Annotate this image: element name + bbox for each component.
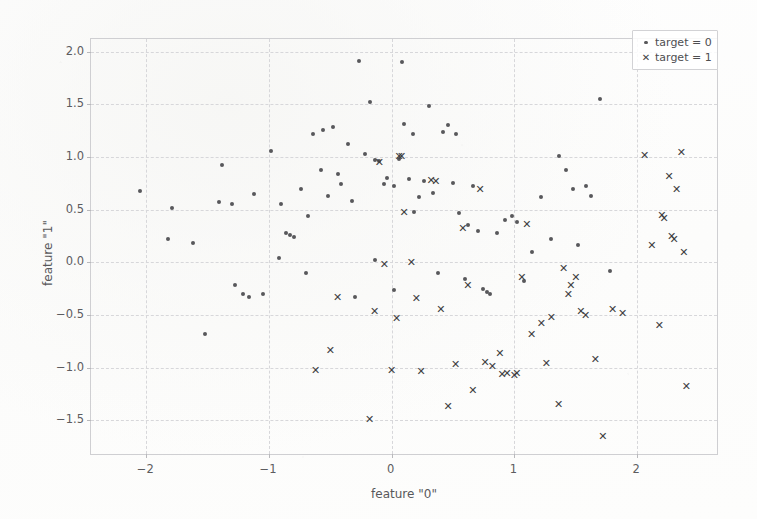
- y-tick-mark: [87, 104, 91, 105]
- data-point-target-1: [541, 358, 552, 369]
- data-point-target-0: [279, 202, 283, 206]
- y-tick-mark: [87, 157, 91, 158]
- y-tick-mark: [87, 262, 91, 263]
- data-point-target-1: [416, 365, 427, 376]
- data-point-target-0: [451, 181, 455, 185]
- data-point-target-0: [427, 104, 431, 108]
- data-point-target-0: [363, 152, 367, 156]
- legend: target = 0 ✕ target = 1: [632, 30, 718, 70]
- data-point-target-0: [598, 97, 602, 101]
- data-point-target-1: [467, 384, 478, 395]
- data-point-target-1: [553, 399, 564, 410]
- data-point-target-0: [350, 199, 354, 203]
- data-point-target-1: [386, 364, 397, 375]
- x-tick-label: −1: [259, 462, 276, 476]
- y-tick-mark: [87, 368, 91, 369]
- data-point-target-1: [391, 313, 402, 324]
- data-point-target-1: [526, 328, 537, 339]
- data-point-target-1: [671, 183, 682, 194]
- data-point-target-0: [331, 125, 335, 129]
- data-point-target-0: [441, 130, 445, 134]
- data-point-target-1: [617, 307, 628, 318]
- data-point-target-0: [608, 269, 612, 273]
- data-point-target-0: [411, 132, 415, 136]
- data-point-target-0: [373, 258, 377, 262]
- data-point-target-0: [261, 292, 265, 296]
- data-point-target-0: [457, 211, 461, 215]
- y-tick-label: 2.0: [52, 44, 84, 58]
- data-point-target-0: [584, 184, 588, 188]
- data-point-target-1: [369, 305, 380, 316]
- y-tick-mark: [87, 315, 91, 316]
- data-point-target-1: [396, 150, 407, 161]
- data-point-target-0: [233, 283, 237, 287]
- data-point-target-0: [392, 184, 396, 188]
- y-tick-label: 0.5: [52, 202, 84, 216]
- data-point-target-0: [336, 172, 340, 176]
- data-point-target-0: [170, 206, 174, 210]
- gridline-horizontal: [91, 52, 717, 53]
- data-point-target-0: [436, 271, 440, 275]
- data-point-target-1: [332, 292, 343, 303]
- data-point-target-1: [399, 206, 410, 217]
- gridline-vertical: [514, 39, 515, 454]
- y-tick-label: 1.0: [52, 149, 84, 163]
- data-point-target-0: [400, 60, 404, 64]
- data-point-target-1: [646, 240, 657, 251]
- data-point-target-0: [557, 154, 561, 158]
- data-point-target-1: [546, 312, 557, 323]
- data-point-target-0: [368, 100, 372, 104]
- x-tick-label: 1: [510, 462, 517, 476]
- data-point-target-0: [417, 195, 421, 199]
- data-point-target-1: [570, 272, 581, 283]
- y-tick-label: −0.5: [52, 307, 84, 321]
- data-point-target-0: [382, 182, 386, 186]
- data-point-target-0: [230, 202, 234, 206]
- data-point-target-0: [402, 122, 406, 126]
- data-point-target-0: [292, 235, 296, 239]
- data-point-target-1: [590, 354, 601, 365]
- data-point-target-0: [385, 176, 389, 180]
- data-point-target-1: [475, 183, 486, 194]
- x-tick-label: 0: [387, 462, 394, 476]
- data-point-target-0: [539, 195, 543, 199]
- x-tick-label: 2: [633, 462, 640, 476]
- x-tick-mark: [637, 454, 638, 458]
- data-point-target-0: [407, 177, 411, 181]
- data-point-target-1: [681, 380, 692, 391]
- data-point-target-0: [241, 292, 245, 296]
- data-point-target-1: [494, 347, 505, 358]
- data-point-target-0: [247, 295, 251, 299]
- y-tick-label: 1.5: [52, 96, 84, 110]
- data-point-target-0: [269, 149, 273, 153]
- data-point-target-0: [571, 187, 575, 191]
- gridline-horizontal: [91, 368, 717, 369]
- data-point-target-1: [664, 170, 675, 181]
- y-tick-label: −1.0: [52, 360, 84, 374]
- data-point-target-1: [597, 431, 608, 442]
- gridline-horizontal: [91, 104, 717, 105]
- data-point-target-0: [564, 168, 568, 172]
- y-tick-label: −1.5: [52, 412, 84, 426]
- data-point-target-1: [462, 280, 473, 291]
- data-point-target-0: [485, 290, 489, 294]
- data-point-target-1: [457, 222, 468, 233]
- data-point-target-0: [476, 229, 480, 233]
- gridline-vertical: [269, 39, 270, 454]
- data-point-target-0: [589, 194, 593, 198]
- data-point-target-1: [450, 359, 461, 370]
- data-point-target-1: [669, 234, 680, 245]
- data-point-target-0: [252, 192, 256, 196]
- data-point-target-0: [357, 59, 361, 63]
- cross-marker-icon: ✕: [637, 53, 655, 63]
- data-point-target-0: [304, 271, 308, 275]
- data-point-target-0: [446, 123, 450, 127]
- data-point-target-1: [654, 320, 665, 331]
- gridline-vertical: [392, 39, 393, 454]
- y-tick-mark: [87, 52, 91, 53]
- data-point-target-1: [521, 219, 532, 230]
- gridline-vertical: [146, 39, 147, 454]
- data-point-target-0: [277, 256, 281, 260]
- x-tick-mark: [269, 454, 270, 458]
- data-point-target-0: [166, 237, 170, 241]
